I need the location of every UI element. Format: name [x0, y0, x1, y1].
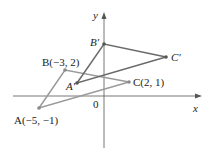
- x-axis-label: x: [192, 102, 198, 114]
- label-a-prime: A′: [65, 80, 76, 92]
- vertex-c-prime: [164, 55, 168, 59]
- label-a: A(−5, −1): [14, 114, 59, 127]
- vertex-b: [63, 68, 67, 72]
- vertex-a: [37, 106, 41, 110]
- vertex-b-prime: [102, 42, 106, 46]
- vertex-a-prime: [75, 81, 79, 85]
- x-axis-arrow-icon: [195, 94, 202, 99]
- coordinate-plane: y x 0 A(−5, −1) B(−3, 2) C(2, 1) A′ B′ C…: [0, 0, 210, 155]
- label-c-prime: C′: [171, 51, 181, 63]
- vertex-c: [127, 80, 131, 84]
- origin-label: 0: [93, 98, 99, 110]
- label-c: C(2, 1): [133, 76, 165, 89]
- label-b: B(−3, 2): [42, 56, 80, 69]
- y-axis-label: y: [92, 9, 98, 21]
- axes: [13, 12, 202, 148]
- y-axis-arrow-icon: [102, 12, 107, 19]
- triangle-abc: [37, 68, 131, 110]
- label-b-prime: B′: [90, 36, 100, 48]
